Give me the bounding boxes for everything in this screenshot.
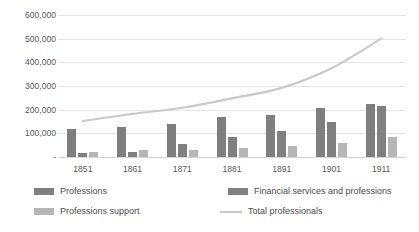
x-axis-tick-label: 1851 — [58, 160, 108, 178]
bar — [366, 104, 375, 157]
x-axis-tick-label: 1861 — [108, 160, 158, 178]
legend-color-swatch-icon — [34, 188, 54, 195]
bar — [228, 137, 237, 157]
bar — [67, 129, 76, 157]
bar — [89, 152, 98, 157]
bar-group — [356, 15, 406, 157]
y-axis: 600,000500,000400,000300,000200,000100,0… — [0, 15, 56, 157]
bar-series-group — [58, 15, 406, 157]
x-axis: 1851186118711881189119011911 — [58, 160, 406, 178]
bar — [277, 131, 286, 158]
bar-group — [108, 15, 158, 157]
bar — [178, 144, 187, 157]
y-axis-tick-label: - — [4, 153, 56, 162]
bar — [189, 150, 198, 157]
bar-group — [157, 15, 207, 157]
bar — [266, 115, 275, 157]
bar — [117, 127, 126, 157]
gridline — [58, 157, 406, 158]
bar — [377, 106, 386, 157]
legend-color-swatch-icon — [228, 188, 248, 195]
bar — [167, 124, 176, 157]
x-axis-tick-label: 1891 — [257, 160, 307, 178]
legend-item[interactable]: Professions support — [34, 207, 140, 216]
plot-area — [58, 15, 406, 157]
legend-item[interactable]: Total professionals — [220, 207, 323, 216]
legend-line-swatch-icon — [220, 211, 242, 213]
x-axis-tick-label: 1911 — [356, 160, 406, 178]
y-axis-tick-label: 200,000 — [4, 105, 56, 114]
bar-group — [207, 15, 257, 157]
legend-label: Professions — [60, 187, 107, 196]
chart-legend: ProfessionsFinancial services and profes… — [30, 186, 410, 228]
bar — [139, 150, 148, 157]
y-axis-tick-label: 100,000 — [4, 129, 56, 138]
legend-label: Financial services and professions — [254, 187, 392, 196]
bar — [327, 122, 336, 158]
legend-item[interactable]: Professions — [34, 187, 107, 196]
y-axis-tick-label: 400,000 — [4, 58, 56, 67]
bar — [288, 146, 297, 157]
bar — [217, 117, 226, 157]
legend-color-swatch-icon — [34, 208, 54, 215]
bar-group — [257, 15, 307, 157]
y-axis-tick-label: 500,000 — [4, 34, 56, 43]
bar — [78, 153, 87, 157]
y-axis-tick-label: 300,000 — [4, 82, 56, 91]
y-axis-tick-label: 600,000 — [4, 11, 56, 20]
x-axis-tick-label: 1871 — [157, 160, 207, 178]
x-axis-tick-label: 1881 — [207, 160, 257, 178]
x-axis-tick-label: 1901 — [307, 160, 357, 178]
legend-label: Total professionals — [248, 207, 323, 216]
bar — [239, 148, 248, 157]
bar — [388, 137, 397, 157]
bar — [338, 143, 347, 157]
legend-item[interactable]: Financial services and professions — [228, 187, 392, 196]
legend-label: Professions support — [60, 207, 140, 216]
bar — [316, 108, 325, 157]
bar-group — [58, 15, 108, 157]
bar-group — [307, 15, 357, 157]
chart-container: 600,000500,000400,000300,000200,000100,0… — [0, 0, 419, 232]
bar — [128, 152, 137, 157]
